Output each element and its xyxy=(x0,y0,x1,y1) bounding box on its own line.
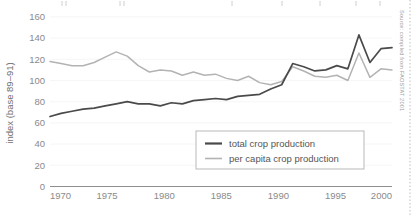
y-tick-160: 160 xyxy=(29,11,45,22)
y-tick-40: 40 xyxy=(34,138,45,149)
chart-figure: 160 140 120 100 80 60 40 20 0 index (bas… xyxy=(0,0,413,215)
y-tick-140: 140 xyxy=(29,32,45,43)
x-tick-1980: 1980 xyxy=(154,190,175,201)
clipped-title-row xyxy=(0,0,395,5)
y-tick-120: 120 xyxy=(29,54,45,65)
y-tick-80: 80 xyxy=(34,96,45,107)
series-per-capita-crop-production xyxy=(50,52,392,85)
x-tick-1990: 1990 xyxy=(268,190,289,201)
x-tick-1975: 1975 xyxy=(97,190,118,201)
chart-legend: total crop production per capita crop pr… xyxy=(196,131,364,169)
legend-label-per-capita: per capita crop production xyxy=(229,153,339,164)
x-tick-2000: 2000 xyxy=(371,190,392,201)
source-note: Source: compiled from FAOSTAT 2001 xyxy=(399,10,405,111)
y-tick-100: 100 xyxy=(29,75,45,86)
y-tick-0: 0 xyxy=(40,181,45,192)
y-axis-title: index (base 89–91) xyxy=(4,62,15,143)
x-axis-tick-labels: 1970 1975 1980 1985 1990 1995 2000 xyxy=(50,190,392,201)
crop-production-line-chart: 160 140 120 100 80 60 40 20 0 index (bas… xyxy=(0,0,413,215)
y-tick-20: 20 xyxy=(34,160,45,171)
legend-label-total: total crop production xyxy=(229,138,315,149)
y-tick-60: 60 xyxy=(34,117,45,128)
x-tick-1970: 1970 xyxy=(50,190,71,201)
y-axis-tick-labels: 160 140 120 100 80 60 40 20 0 xyxy=(29,11,45,192)
x-tick-1995: 1995 xyxy=(325,190,346,201)
x-tick-1985: 1985 xyxy=(211,190,232,201)
